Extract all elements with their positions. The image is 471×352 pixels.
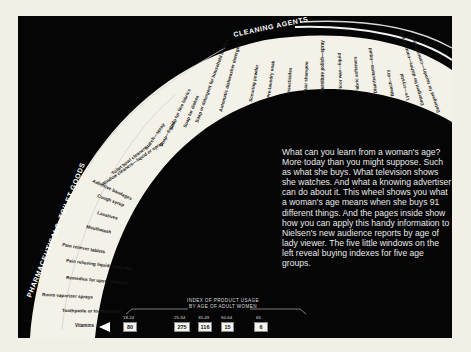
cropped-headline — [0, 343, 471, 352]
wheel-item-selected[interactable]: Vitamins — [75, 323, 95, 328]
index-title: INDEX OF PRODUCT USAGE BY AGE OF ADULT W… — [148, 298, 298, 310]
body-copy: What can you learn from a woman's age? M… — [282, 147, 452, 268]
age-label-25-34: 25-34 — [174, 315, 185, 320]
index-title-line2: BY AGE OF ADULT WOMEN — [148, 304, 298, 310]
index-window-50-64: 15 — [221, 322, 234, 332]
index-of-product-usage: INDEX OF PRODUCT USAGE BY AGE OF ADULT W… — [118, 298, 448, 334]
selection-pointer-icon — [99, 322, 110, 332]
index-window-25-34: 275 — [174, 322, 190, 332]
index-window-18-24: 80 — [123, 322, 137, 332]
wheel-item[interactable]: Furniture polish—spray — [320, 40, 325, 92]
index-window-35-49: 116 — [198, 322, 212, 332]
age-label-50-64: 50-64 — [221, 315, 232, 320]
wheel-item[interactable]: Toothpaste or toothpowder — [62, 308, 122, 314]
age-label-35-49: 35-49 — [198, 315, 209, 320]
index-window-65: 6 — [254, 322, 268, 332]
age-label-18-24: 18-24 — [123, 315, 134, 320]
age-label-65: 65 — [256, 315, 261, 320]
advertisement-page: CLEANING AGENTS PHARMACEUTICALS, TOILET … — [0, 0, 471, 352]
